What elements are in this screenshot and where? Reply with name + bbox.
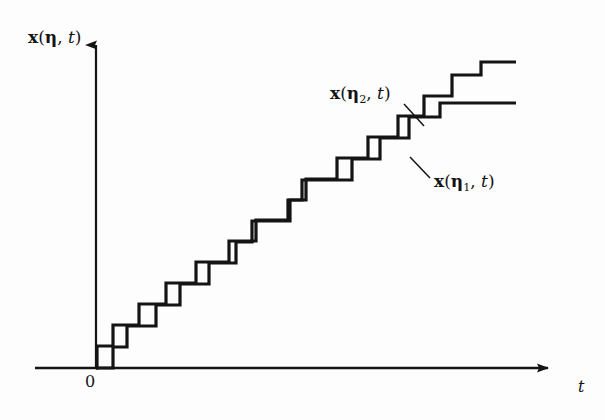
upper-label-close: ) bbox=[384, 83, 391, 103]
lower-label-eta: η bbox=[451, 171, 463, 191]
upper-curve-label: x(η2, t) bbox=[330, 85, 391, 105]
y-axis-label-open: ( bbox=[38, 27, 45, 47]
upper-label-t: t bbox=[377, 83, 384, 103]
step-function-plot bbox=[0, 0, 605, 420]
y-axis-label-var: x bbox=[28, 27, 38, 47]
upper-label-var: x bbox=[330, 83, 340, 103]
leader-line-eta1 bbox=[410, 157, 430, 178]
x-axis-label: t bbox=[578, 379, 584, 395]
y-axis-label: x(η, t) bbox=[28, 29, 81, 46]
y-axis-label-comma: , bbox=[57, 27, 68, 47]
y-axis-label-eta: η bbox=[45, 27, 57, 47]
lower-staircase bbox=[96, 103, 516, 368]
lower-label-comma: , bbox=[470, 171, 481, 191]
upper-label-open: ( bbox=[340, 83, 347, 103]
lower-label-open: ( bbox=[444, 171, 451, 191]
upper-staircase bbox=[96, 62, 516, 368]
lower-label-t: t bbox=[481, 171, 488, 191]
upper-label-comma: , bbox=[366, 83, 377, 103]
upper-label-eta: η bbox=[347, 83, 359, 103]
figure-container: x(η, t) x(η2, t) x(η1, t) 0 t bbox=[0, 0, 605, 420]
lower-curve-label: x(η1, t) bbox=[434, 173, 495, 193]
lower-label-var: x bbox=[434, 171, 444, 191]
y-axis-label-close: ) bbox=[75, 27, 82, 47]
data-series-layer bbox=[96, 62, 516, 368]
origin-label: 0 bbox=[85, 374, 95, 390]
lower-label-close: ) bbox=[488, 171, 495, 191]
y-axis-label-t: t bbox=[68, 27, 75, 47]
